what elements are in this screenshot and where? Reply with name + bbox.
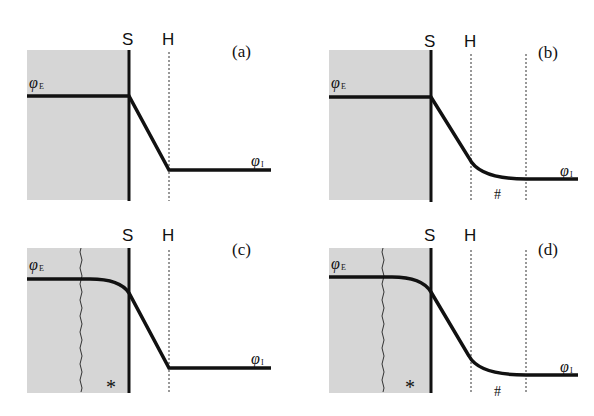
svg-text:φ: φ xyxy=(560,162,569,180)
svg-text:I: I xyxy=(261,358,264,367)
h-label: H xyxy=(464,226,476,245)
h-label: H xyxy=(162,30,174,49)
panel-b: S H (b) φ E φ I # xyxy=(329,32,578,202)
hash-marker: # xyxy=(494,384,501,399)
svg-text:φ: φ xyxy=(251,152,260,170)
panel-a: S H (a) φ E φ I xyxy=(27,30,271,201)
svg-text:φ: φ xyxy=(29,256,38,274)
star-marker: * xyxy=(405,376,415,398)
svg-text:E: E xyxy=(341,82,346,91)
s-label: S xyxy=(122,30,133,49)
svg-text:I: I xyxy=(570,170,573,179)
panel-label: (a) xyxy=(232,42,251,61)
svg-text:φ: φ xyxy=(251,350,260,368)
hash-marker: # xyxy=(494,187,501,202)
s-label: S xyxy=(424,226,435,245)
phi-i-label: φ I xyxy=(560,358,573,376)
panel-label: (b) xyxy=(538,43,558,62)
svg-text:E: E xyxy=(39,264,44,273)
svg-text:φ: φ xyxy=(29,74,38,92)
svg-text:I: I xyxy=(570,366,573,375)
svg-text:φ: φ xyxy=(560,358,569,376)
star-marker: * xyxy=(106,376,116,398)
svg-text:φ: φ xyxy=(331,255,340,273)
phi-i-label: φ I xyxy=(560,162,573,180)
svg-text:φ: φ xyxy=(331,74,340,92)
s-label: S xyxy=(122,226,133,245)
h-label: H xyxy=(162,226,174,245)
shaded-region xyxy=(329,50,431,200)
panel-label: (c) xyxy=(232,240,251,259)
panel-c: S H (c) φ E φ I * xyxy=(27,226,271,398)
phi-i-label: φ I xyxy=(251,350,264,368)
svg-text:E: E xyxy=(341,263,346,272)
svg-text:E: E xyxy=(39,82,44,91)
panel-d: S H (d) φ E φ I * # xyxy=(329,226,578,399)
h-label: H xyxy=(464,32,476,51)
phi-i-label: φ I xyxy=(251,152,264,170)
panel-label: (d) xyxy=(538,240,558,259)
s-label: S xyxy=(424,32,435,51)
svg-text:I: I xyxy=(261,160,264,169)
figure-canvas: S H (a) φ E φ I S H (b) φ E φ I # xyxy=(0,0,594,416)
shaded-region xyxy=(27,50,129,200)
